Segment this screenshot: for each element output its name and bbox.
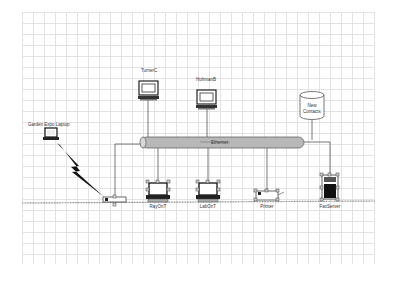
laptop-node[interactable]: Garden Expo Laptop xyxy=(28,122,70,140)
server-node[interactable]: FaxServer xyxy=(320,173,341,209)
pc2-node[interactable]: LabOnT xyxy=(196,180,220,209)
server-label: FaxServer xyxy=(320,204,341,209)
network-diagram: Ethernet Garden Expo Laptop TurnerC Hohm… xyxy=(0,0,395,297)
pc-icon xyxy=(196,180,220,202)
hohman-label: HohmanB xyxy=(196,77,216,82)
server-icon xyxy=(320,173,339,201)
database-label-line2: Contacts xyxy=(303,109,322,114)
wireless-link-bolt-icon xyxy=(57,143,104,197)
database-node[interactable]: New Contacts xyxy=(300,92,324,120)
laptop-label: Garden Expo Laptop xyxy=(28,122,70,127)
pc1-node[interactable]: RayOnT xyxy=(146,180,170,209)
printer-icon xyxy=(254,189,284,201)
turner-node[interactable]: TurnerC xyxy=(138,68,159,101)
database-label-line1: New xyxy=(307,103,317,108)
workstation-icon xyxy=(196,90,217,110)
hohman-node[interactable]: HohmanB xyxy=(196,77,217,110)
ethernet-backbone[interactable]: Ethernet xyxy=(140,137,304,148)
workstation-icon xyxy=(138,81,159,101)
wireless-ap-node[interactable] xyxy=(103,195,126,206)
pc-icon xyxy=(146,180,170,202)
printer-label: Printer xyxy=(260,204,274,209)
turner-label: TurnerC xyxy=(141,68,158,73)
ethernet-label: Ethernet xyxy=(211,140,229,145)
pc1-label: RayOnT xyxy=(150,204,167,209)
server-link xyxy=(300,142,330,174)
pc2-label: LabOnT xyxy=(200,204,217,209)
ap-link xyxy=(115,144,142,196)
printer-node[interactable]: Printer xyxy=(254,189,284,209)
